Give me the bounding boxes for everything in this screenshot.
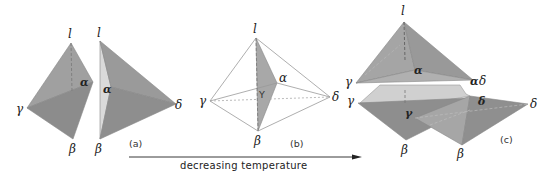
label-a-left-beta: β [68,142,76,156]
label-a-right-beta: β [94,142,102,156]
label-a-left-gamma: γ [16,102,24,116]
label-c-gamma-bottom: γ [347,94,355,108]
label-b-l: l [253,22,257,36]
edge-l-gamma [210,38,256,101]
label-c-l: l [401,4,405,18]
label-c-gamma-top: γ [345,75,353,89]
label-c-beta-right: β [456,147,464,161]
temperature-arrow [129,155,362,160]
label-b-gamma: γ [199,94,207,108]
edge-alpha-delta [277,83,330,97]
panel-a-left-tetrahedron [27,43,93,139]
caption-c: (c) [500,134,513,145]
label-c-gamma-center: γ [405,107,413,120]
caption-a: (a) [129,138,142,149]
label-b-alpha: α [279,71,287,85]
caption-b: (b) [290,138,303,149]
label-b-center: Y [258,89,265,100]
label-c-delta-top: δ [479,74,486,88]
label-a-right-l: l [97,26,101,40]
label-c-beta-left: β [400,143,408,157]
label-a-right-delta: δ [175,98,182,112]
phase-diagram-figure: l α γ β l α δ β (a) l α Y γ δ β (b) decr… [0,0,552,178]
arrow-label: decreasing temperature [180,160,307,171]
edge-gamma-beta [210,101,258,131]
label-a-right-alpha: α [103,83,112,96]
arrow-head [352,155,362,160]
label-b-beta: β [253,134,261,148]
label-b-delta: δ [332,90,339,104]
panel-c-exploded [356,22,528,145]
delta-piece-right-face [462,96,528,145]
panel-b-wireframe [210,38,330,131]
label-a-left-l: l [68,27,72,41]
label-c-alpha-right: α [470,75,479,88]
label-c-alpha-top: α [414,64,423,77]
label-a-left-alpha: α [80,76,89,89]
label-c-delta-right: δ [530,97,537,111]
label-c-delta-center: δ [477,95,485,108]
